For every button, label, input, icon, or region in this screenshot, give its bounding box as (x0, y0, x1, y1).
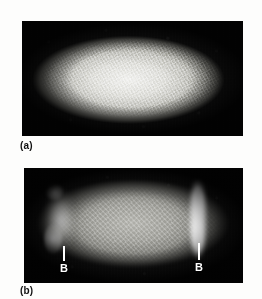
panel-caption-a: (a) (20, 140, 33, 151)
annotation-right: B (195, 243, 203, 273)
leader-line-left (63, 246, 65, 261)
vignette-halo-b (24, 168, 243, 283)
micrograph-panel-b: B B (24, 168, 243, 283)
micrograph-panel-a (22, 21, 243, 136)
panel-caption-b: (b) (20, 285, 33, 296)
annotation-label-right: B (195, 261, 203, 273)
annotation-left: B (60, 246, 68, 274)
annotation-label-left: B (60, 262, 68, 274)
figure-container: (a) B B (b) (0, 0, 262, 299)
vignette-halo-a (22, 21, 243, 136)
leader-line-right (198, 243, 200, 260)
